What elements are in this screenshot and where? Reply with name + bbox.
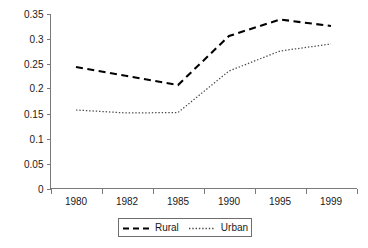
y-axis-ticks <box>47 15 51 190</box>
y-axis-tick-labels: 00.050.10.150.20.250.30.35 <box>24 9 44 195</box>
x-tick-label: 1995 <box>269 196 292 207</box>
x-axis-tick-labels: 198019821985199019951999 <box>65 196 343 207</box>
y-axis: 00.050.10.150.20.250.30.35 <box>24 9 50 195</box>
data-series-group <box>76 20 331 114</box>
x-tick-label: 1980 <box>65 196 88 207</box>
legend-entry-rural: Rural <box>122 223 179 233</box>
chart-legend: Rural Urban <box>118 218 252 237</box>
y-tick-label: 0 <box>38 184 44 195</box>
series-line-rural <box>76 20 331 86</box>
y-tick-label: 0.1 <box>30 134 44 145</box>
legend-label-rural: Rural <box>155 223 179 233</box>
y-tick-label: 0.15 <box>24 109 44 120</box>
x-axis: 198019821985199019951999 <box>51 189 358 207</box>
y-tick-label: 0.2 <box>30 83 44 94</box>
x-tick-label: 1999 <box>320 196 343 207</box>
x-tick-label: 1985 <box>167 196 190 207</box>
x-tick-label: 1990 <box>218 196 241 207</box>
line-chart-figure: 00.050.10.150.20.250.30.35 1980198219851… <box>0 0 368 248</box>
y-tick-label: 0.25 <box>24 59 44 70</box>
x-tick-label: 1982 <box>116 196 139 207</box>
legend-entry-urban: Urban <box>188 223 248 233</box>
legend-label-urban: Urban <box>221 223 248 233</box>
y-tick-label: 0.05 <box>24 159 44 170</box>
series-line-urban <box>76 44 331 113</box>
x-axis-ticks <box>52 189 358 194</box>
y-tick-label: 0.35 <box>24 9 44 20</box>
legend-swatch-dashed-line-icon <box>122 223 150 233</box>
legend-swatch-dotted-line-icon <box>188 223 216 233</box>
chart-plot-area: 00.050.10.150.20.250.30.35 1980198219851… <box>0 0 368 248</box>
y-tick-label: 0.3 <box>30 34 44 45</box>
